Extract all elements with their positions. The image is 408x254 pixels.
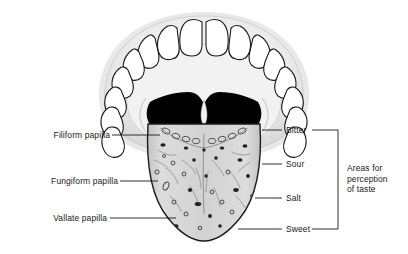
label-fungiform-papilla: Fungiform papilla bbox=[8, 176, 118, 187]
label-sweet: Sweet bbox=[286, 224, 310, 235]
label-taste-areas-line2: perception bbox=[347, 174, 408, 185]
tooth-central-incisor-left bbox=[180, 20, 202, 56]
label-bitter: Bitter bbox=[286, 125, 306, 136]
label-taste-areas-line1: Areas for bbox=[347, 163, 408, 174]
tongue-taste-diagram: Filiform papilla Fungiform papilla Valla… bbox=[0, 0, 408, 254]
tooth-central-incisor-right bbox=[206, 20, 228, 56]
label-filiform-papilla: Filiform papilla bbox=[12, 130, 110, 141]
label-sour: Sour bbox=[286, 159, 304, 170]
tongue bbox=[148, 124, 261, 241]
label-vallate-papilla: Vallate papilla bbox=[12, 213, 107, 224]
label-salt: Salt bbox=[286, 193, 301, 204]
taste-areas-bracket bbox=[312, 130, 338, 229]
label-taste-areas: Areas for perception of taste bbox=[347, 163, 408, 195]
label-taste-areas-line3: of taste bbox=[347, 184, 408, 195]
